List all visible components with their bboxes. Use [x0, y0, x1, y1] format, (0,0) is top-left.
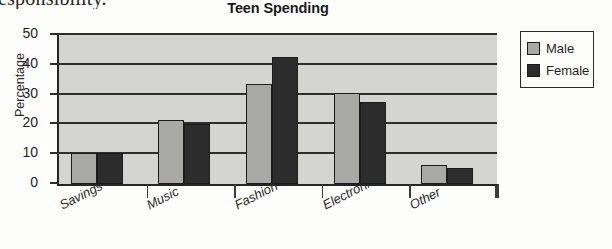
y-axis-tick-label: 10 [22, 144, 38, 160]
y-axis-tick-label: 30 [22, 85, 38, 101]
x-axis-tick [497, 184, 499, 198]
plot-area: 01020304050 SavingsMusicFashionElectroni… [57, 35, 497, 186]
legend-label: Male [546, 41, 574, 56]
legend: MaleFemale [520, 31, 594, 88]
bar-savings-female [97, 153, 123, 184]
y-axis-tick-label: 40 [22, 55, 38, 71]
chart-page: esponsibility. Teen Spending Percentage … [0, 0, 612, 249]
y-axis-tick: 10 [50, 152, 59, 154]
x-axis-label-music: Music [144, 184, 181, 213]
y-axis-tick-label: 50 [22, 25, 38, 41]
bar-other-female [447, 168, 473, 184]
gridline [59, 33, 497, 35]
y-axis-tick: 20 [50, 122, 59, 124]
bar-electronics-male [334, 93, 360, 184]
bar-fashion-male [246, 84, 272, 184]
legend-item-female: Female [527, 59, 587, 81]
x-axis-tick [322, 184, 324, 198]
bar-fashion-female [272, 57, 298, 184]
x-axis-label-other: Other [407, 184, 443, 212]
legend-label: Female [546, 63, 589, 78]
bar-savings-male [71, 153, 97, 184]
cut-off-paragraph-text: esponsibility. [0, 0, 198, 9]
legend-swatch-icon-male [527, 42, 540, 55]
legend-swatch-icon-female [527, 64, 540, 77]
cut-off-text-line: esponsibility. [0, 0, 198, 9]
y-axis-tick: 30 [50, 93, 59, 95]
y-axis-tick: 0 [50, 182, 59, 184]
bar-electronics-female [360, 102, 386, 184]
bar-music-female [184, 124, 210, 184]
y-axis-tick-label: 0 [30, 174, 38, 190]
y-axis-tick: 40 [50, 63, 59, 65]
bar-music-male [158, 120, 184, 184]
chart-title: Teen Spending [178, 0, 378, 16]
legend-item-male: Male [527, 37, 587, 59]
y-axis-tick-label: 20 [22, 114, 38, 130]
bar-other-male [421, 165, 447, 184]
y-axis-tick: 50 [50, 33, 59, 35]
